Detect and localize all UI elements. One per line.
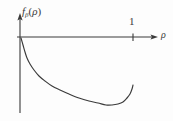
figure-container: fβ(ρ) ρ 1 — [0, 0, 173, 121]
y-axis-label: fβ(ρ) — [22, 6, 41, 19]
x-axis-label: ρ — [161, 30, 166, 40]
data-curve — [21, 38, 133, 105]
y-axis-label-close-paren: ) — [38, 5, 42, 17]
x-axis-tick-label-1: 1 — [129, 16, 135, 27]
